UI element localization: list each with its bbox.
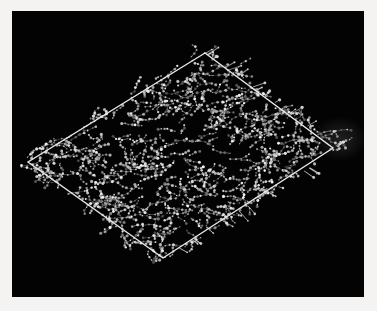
figure-root: [0, 0, 377, 311]
simulation-viewport: [12, 11, 364, 297]
simulation-scene: [12, 11, 364, 297]
